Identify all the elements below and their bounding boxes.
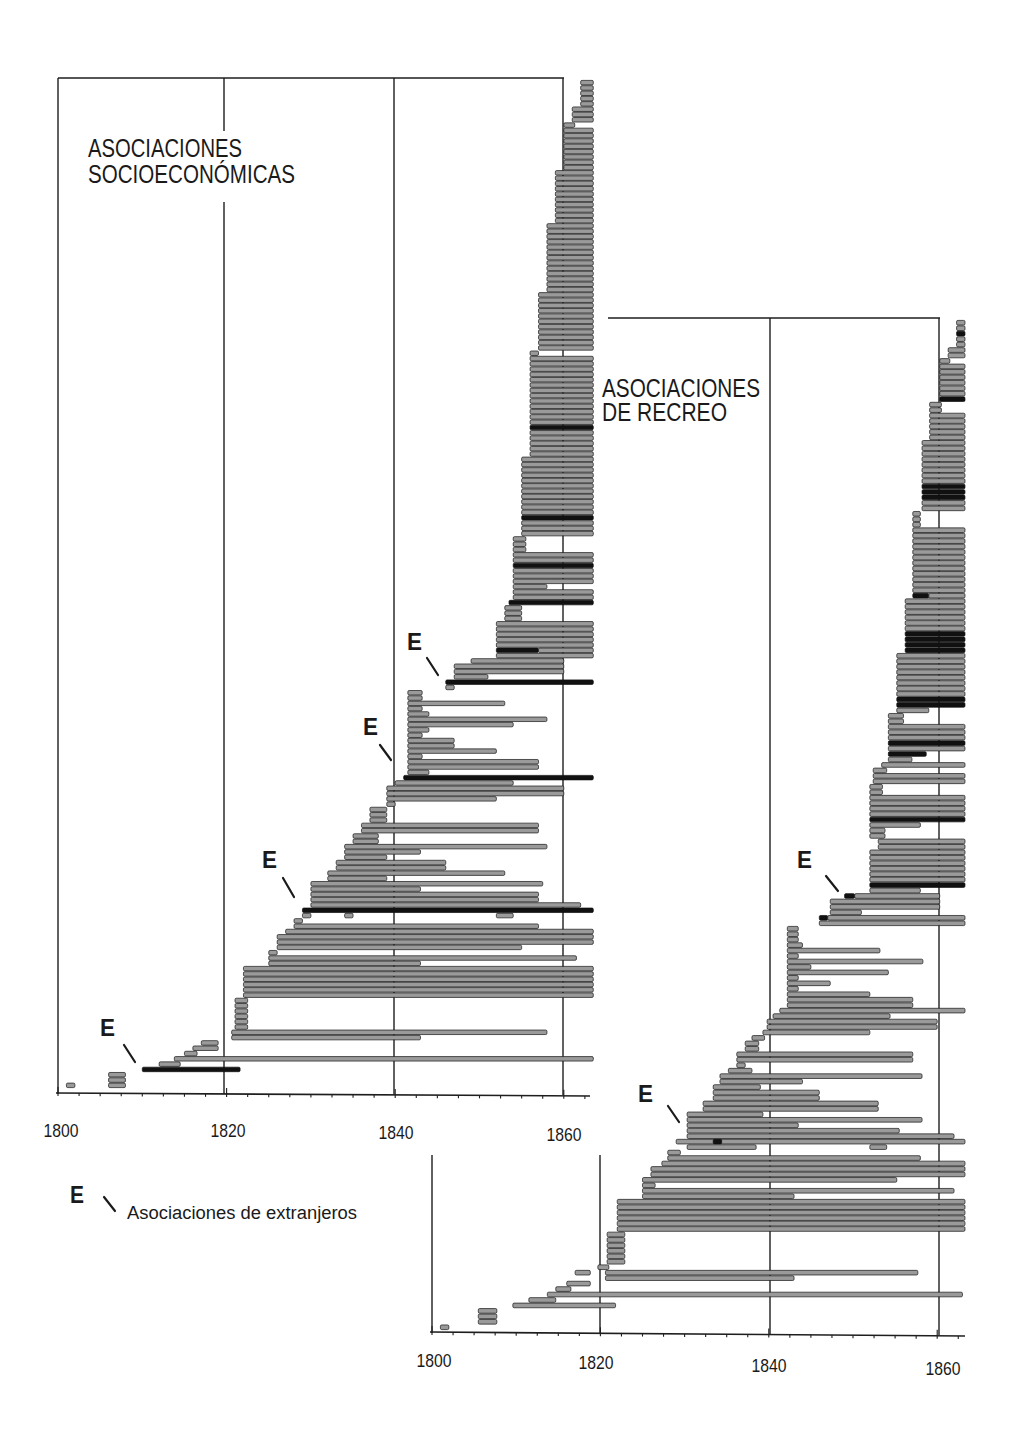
legend-label: Asociaciones de extranjeros bbox=[127, 1203, 357, 1223]
timeline-bar bbox=[581, 102, 594, 107]
timeline-bar bbox=[555, 218, 593, 223]
timeline-bar bbox=[870, 784, 883, 789]
timeline-bar bbox=[873, 779, 965, 784]
timeline-bar bbox=[530, 393, 593, 398]
timeline-bar bbox=[870, 806, 965, 811]
timeline-bar bbox=[530, 441, 593, 446]
timeline-bar bbox=[555, 213, 593, 218]
e-marker-label: E bbox=[407, 629, 422, 655]
timeline-bar bbox=[607, 1232, 625, 1237]
timeline-bar bbox=[302, 908, 593, 913]
timeline-bar bbox=[547, 255, 593, 260]
timeline-bar bbox=[555, 208, 593, 213]
timeline-bar bbox=[787, 997, 912, 1002]
timeline-bar bbox=[311, 892, 539, 897]
timeline-bar bbox=[870, 801, 965, 806]
timeline-bar bbox=[913, 533, 965, 538]
timeline-bar bbox=[235, 1025, 248, 1030]
timeline-bar bbox=[787, 1003, 912, 1008]
e-marker-label: E bbox=[797, 847, 812, 873]
timeline-bar bbox=[505, 611, 522, 616]
timeline-bar bbox=[235, 1009, 248, 1014]
timeline-bar bbox=[522, 515, 594, 520]
e-marker-label: E bbox=[100, 1015, 115, 1041]
timeline-bar bbox=[607, 1249, 625, 1254]
timeline-bar bbox=[687, 1128, 899, 1133]
timeline-bar bbox=[408, 722, 513, 727]
timeline-bar bbox=[408, 770, 429, 775]
timeline-bar bbox=[471, 659, 564, 664]
timeline-bar bbox=[870, 1145, 887, 1150]
timeline-bar bbox=[905, 637, 965, 642]
timeline-bar bbox=[929, 593, 965, 598]
timeline-bar bbox=[564, 128, 594, 133]
timeline-bar bbox=[454, 675, 488, 680]
timeline-bar bbox=[617, 1199, 965, 1204]
timeline-bar bbox=[408, 744, 454, 749]
timeline-bar bbox=[193, 1046, 218, 1051]
timeline-bar bbox=[787, 970, 888, 975]
timeline-bar bbox=[505, 606, 522, 611]
timeline-bar bbox=[713, 1085, 760, 1090]
timeline-bar bbox=[737, 1052, 913, 1057]
timeline-bar bbox=[913, 555, 965, 560]
timeline-bar bbox=[888, 741, 965, 746]
e-marker: E bbox=[363, 714, 391, 760]
timeline-bar bbox=[513, 595, 593, 600]
timeline-bar bbox=[870, 828, 885, 833]
e-marker: E bbox=[797, 847, 838, 891]
timeline-bar bbox=[522, 473, 594, 478]
timeline-bar bbox=[581, 96, 594, 101]
timeline-bar bbox=[513, 574, 593, 579]
timeline-bar bbox=[277, 945, 521, 950]
timeline-bar bbox=[913, 577, 965, 582]
timeline-bar bbox=[922, 473, 965, 478]
timeline-bar bbox=[737, 1057, 913, 1062]
timeline-bar bbox=[269, 950, 277, 955]
timeline-bar bbox=[752, 1036, 765, 1041]
timeline-bar bbox=[662, 1161, 965, 1166]
timeline-bar bbox=[787, 992, 870, 997]
tick-label-1840: 1840 bbox=[379, 1122, 414, 1143]
timeline-bar bbox=[522, 457, 594, 462]
timeline-bar bbox=[888, 752, 926, 757]
timeline-bar bbox=[408, 728, 429, 733]
timeline-bar bbox=[539, 319, 594, 324]
timeline-bar bbox=[897, 670, 965, 675]
e-marker-label: E bbox=[363, 714, 378, 740]
timeline-bar bbox=[547, 287, 593, 292]
timeline-bar bbox=[870, 817, 965, 822]
timeline-bar bbox=[957, 326, 965, 331]
timeline-bar bbox=[530, 436, 593, 441]
timeline-bar bbox=[905, 615, 965, 620]
timeline-bar bbox=[668, 1156, 921, 1161]
timeline-bar bbox=[787, 943, 802, 948]
timeline-bar bbox=[336, 860, 446, 865]
timeline-bar bbox=[763, 1030, 870, 1035]
timeline-bar bbox=[530, 362, 593, 367]
timeline-bar bbox=[957, 320, 965, 325]
timeline-bar bbox=[547, 1292, 962, 1297]
timeline-bar bbox=[940, 364, 965, 369]
timeline-bar bbox=[294, 924, 538, 929]
timeline-bar bbox=[581, 80, 594, 85]
timeline-bar bbox=[408, 738, 454, 743]
timeline-bar bbox=[567, 1281, 591, 1286]
timeline-bar bbox=[922, 457, 965, 462]
timeline-bar bbox=[940, 397, 965, 402]
timeline-bar bbox=[888, 730, 965, 735]
timeline-bar bbox=[948, 348, 965, 353]
timeline-bar bbox=[408, 733, 422, 738]
timeline-bar bbox=[159, 1062, 180, 1067]
timeline-bar bbox=[930, 424, 965, 429]
timeline-bar bbox=[651, 1172, 965, 1177]
timeline-bar bbox=[513, 579, 593, 584]
timeline-bar bbox=[530, 431, 593, 436]
timeline-bar bbox=[905, 610, 965, 615]
timeline-bar bbox=[478, 1314, 497, 1319]
timeline-bar bbox=[767, 1019, 937, 1024]
timeline-bar bbox=[905, 621, 965, 626]
timeline-bar bbox=[564, 155, 594, 160]
timeline-bar bbox=[345, 913, 353, 918]
timeline-bar bbox=[522, 505, 594, 510]
